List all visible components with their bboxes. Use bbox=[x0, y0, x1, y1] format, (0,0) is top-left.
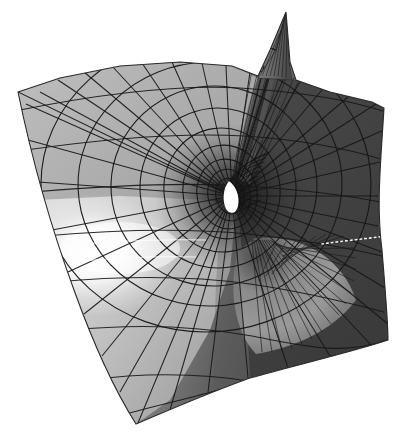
figure-root: Minimal surface with spiral singularity … bbox=[0, 0, 420, 431]
minimal-surface-illustration: Minimal surface with spiral singularity … bbox=[0, 0, 420, 431]
